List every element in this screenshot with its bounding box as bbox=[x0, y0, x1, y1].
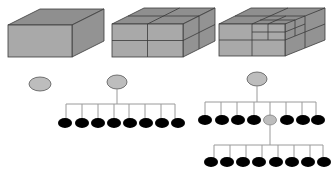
root-node bbox=[107, 75, 127, 89]
cube-octants bbox=[112, 8, 215, 57]
leaf-node bbox=[75, 118, 89, 128]
leaf-node bbox=[317, 157, 331, 167]
root-node bbox=[29, 77, 51, 91]
leaf-node bbox=[171, 118, 185, 128]
leaf-node bbox=[236, 157, 250, 167]
leaf-node bbox=[58, 118, 72, 128]
leaf-node bbox=[311, 115, 325, 125]
leaf-node bbox=[204, 157, 218, 167]
leaf-node bbox=[269, 157, 283, 167]
leaf-node bbox=[215, 115, 229, 125]
leaf-node bbox=[107, 118, 121, 128]
leaf-node bbox=[139, 118, 153, 128]
leaf-node bbox=[91, 118, 105, 128]
root-node bbox=[247, 72, 267, 86]
internal-node bbox=[264, 115, 277, 125]
leaf-node bbox=[285, 157, 299, 167]
leaf-node bbox=[155, 118, 169, 128]
cube-undivided bbox=[8, 9, 104, 57]
tree-level-2 bbox=[58, 75, 185, 128]
leaf-node bbox=[198, 115, 212, 125]
cube-subdivided bbox=[219, 8, 325, 56]
leaf-node bbox=[123, 118, 137, 128]
leaf-node bbox=[252, 157, 266, 167]
octree-diagram bbox=[0, 0, 336, 176]
leaf-node bbox=[247, 115, 261, 125]
leaf-node bbox=[280, 115, 294, 125]
leaf-node bbox=[220, 157, 234, 167]
leaf-node bbox=[296, 115, 310, 125]
leaf-node bbox=[301, 157, 315, 167]
leaf-node bbox=[231, 115, 245, 125]
tree-level-3 bbox=[198, 72, 331, 167]
